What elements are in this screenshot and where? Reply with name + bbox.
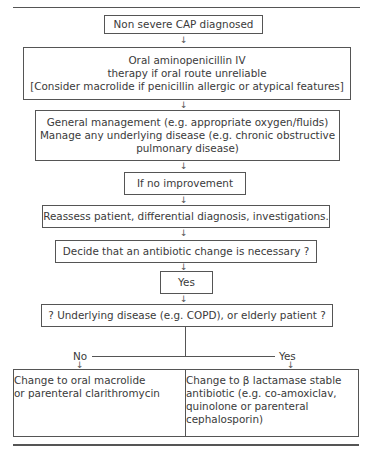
node-text: Decide that an antibiotic change is nece… — [63, 245, 309, 258]
node-text: Change to β lactamase stable — [186, 374, 342, 387]
branch-bar — [92, 356, 275, 357]
node-text: quinolone or parenteral — [186, 400, 308, 413]
node-decide-change: Decide that an antibiotic change is nece… — [55, 240, 317, 263]
node-macrolide: Change to oral macrolide or parenteral c… — [13, 369, 186, 437]
node-text: pulmonary disease) — [136, 142, 239, 155]
node-text: Manage any underlying disease (e.g. chro… — [40, 129, 335, 142]
arrow-down-icon: ↓ — [180, 162, 187, 171]
node-underlying-question: ? Underlying disease (e.g. COPD), or eld… — [41, 304, 333, 327]
node-initial-therapy: Oral aminopenicillin IV therapy if oral … — [23, 47, 351, 100]
arrow-down-icon: ↓ — [180, 101, 187, 110]
node-general-management: General management (e.g. appropriate oxy… — [35, 110, 340, 161]
arrow-down-icon: ↓ — [180, 196, 187, 205]
node-no-improvement: If no improvement — [124, 172, 246, 195]
node-text: Non severe CAP diagnosed — [114, 18, 254, 31]
arrow-down-icon: ↓ — [180, 36, 187, 45]
arrow-down-icon: ↓ — [180, 295, 187, 304]
node-text: Reassess patient, differential diagnosis… — [43, 210, 329, 223]
branch-stem — [185, 327, 186, 357]
arrow-down-icon: ↓ — [180, 229, 187, 238]
node-text: [Consider macrolide if penicillin allerg… — [30, 80, 344, 93]
node-text: General management (e.g. appropriate oxy… — [47, 116, 328, 129]
node-reassess: Reassess patient, differential diagnosis… — [42, 205, 330, 228]
bottom-rule — [13, 444, 359, 446]
node-beta-lactamase: Change to β lactamase stable antibiotic … — [185, 369, 359, 437]
node-text: cephalosporin) — [186, 413, 263, 426]
node-text: If no improvement — [137, 177, 233, 190]
top-rule — [13, 7, 360, 8]
node-text: therapy if oral route unreliable — [107, 67, 266, 80]
node-text: Yes — [178, 276, 195, 289]
node-text: Change to oral macrolide — [14, 374, 145, 387]
node-text: antibiotic (e.g. co-amoxiclav, — [186, 387, 337, 400]
node-text: Oral aminopenicillin IV — [128, 54, 245, 67]
node-text: ? Underlying disease (e.g. COPD), or eld… — [48, 309, 325, 322]
node-text: or parenteral clarithromycin — [14, 387, 160, 400]
node-yes: Yes — [160, 271, 213, 294]
node-start: Non severe CAP diagnosed — [104, 15, 263, 34]
